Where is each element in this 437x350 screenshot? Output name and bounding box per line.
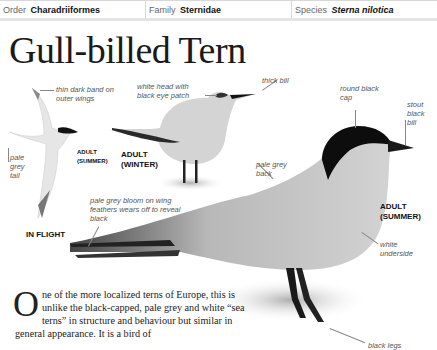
leader-line	[405, 120, 406, 145]
label-pale-grey-back: pale grey back	[256, 160, 290, 178]
label-wing-bloom: pale grey bloom on wing feathers wears o…	[90, 196, 186, 223]
label-pale-grey-tail: pale grey tail	[10, 153, 32, 180]
label-stout-black-bill: stout black bill	[407, 100, 435, 127]
winter-bird-illustration	[110, 92, 256, 191]
leader-line	[8, 148, 9, 162]
description-text: ne of the more localized terns of Europe…	[15, 289, 245, 339]
label-flight-age: ADULT (SUMMER)	[77, 148, 117, 166]
leader-line	[40, 90, 54, 91]
description-paragraph: One of the more localized terns of Europ…	[15, 288, 260, 340]
label-thick-bill: thick bill	[262, 76, 289, 85]
drop-cap: O	[13, 290, 39, 318]
caption-adult-summer: ADULT (SUMMER)	[380, 202, 430, 222]
label-black-legs: black legs	[368, 341, 401, 350]
label-white-head: white head with black eye patch	[137, 82, 205, 100]
leader-line	[355, 110, 356, 128]
label-outer-wings: thin dark band on outer wings	[56, 85, 118, 103]
caption-adult-winter: ADULT (WINTER)	[121, 150, 171, 170]
label-white-underside: white underside	[380, 240, 420, 258]
label-round-black-cap: round black cap	[340, 84, 384, 102]
caption-in-flight: IN FLIGHT	[26, 230, 65, 240]
leader-line	[205, 95, 217, 96]
